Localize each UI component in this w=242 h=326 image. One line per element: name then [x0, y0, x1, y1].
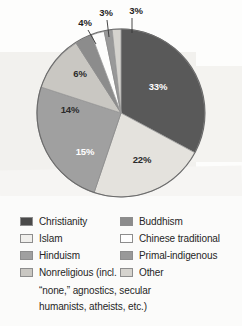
legend-continuation: “none,” agnostics, secular humanists, at…: [20, 283, 232, 315]
legend-item-nonreligious[interactable]: Nonreligious (incl.: [20, 265, 120, 280]
legend-row: Nonreligious (incl. Other: [20, 265, 232, 282]
legend-item-hinduism[interactable]: Hinduism: [20, 248, 120, 263]
legend-continuation-line-2: humanists, atheists, etc.): [39, 299, 232, 315]
legend-label-nonreligious: Nonreligious (incl.: [39, 265, 117, 280]
chart-legend: Christianity Buddhism Islam Chinese trad…: [20, 214, 232, 315]
legend-swatch-chinese-traditional: [120, 234, 133, 243]
legend-swatch-buddhism: [120, 217, 133, 226]
legend-item-chinese-traditional[interactable]: Chinese traditional: [120, 231, 232, 246]
legend-item-islam[interactable]: Islam: [20, 231, 120, 246]
slice-label-buddhism: 6%: [73, 68, 87, 79]
legend-row: Christianity Buddhism: [20, 214, 232, 231]
legend-continuation-line-1: “none,” agnostics, secular: [39, 283, 232, 299]
slice-label-christianity: 33%: [149, 81, 168, 92]
legend-label-hinduism: Hinduism: [39, 248, 80, 263]
slice-label-hinduism: 15%: [76, 146, 95, 157]
legend-swatch-primal-indigenous: [120, 251, 133, 260]
legend-label-christianity: Christianity: [39, 214, 87, 229]
legend-row: Hinduism Primal-indigenous: [20, 248, 232, 265]
slice-label-primal-indigenous: 3%: [99, 7, 113, 18]
legend-swatch-hinduism: [20, 251, 33, 260]
legend-swatch-christianity: [20, 217, 33, 226]
legend-label-primal-indigenous: Primal-indigenous: [139, 248, 217, 263]
legend-label-chinese-traditional: Chinese traditional: [139, 231, 220, 246]
pie-chart-svg: 33% 22% 15% 14% 6% 4% 3% 3%: [0, 0, 242, 208]
slice-label-chinese-traditional: 4%: [78, 17, 92, 28]
legend-label-buddhism: Buddhism: [139, 214, 183, 229]
legend-label-other: Other: [139, 265, 164, 280]
legend-label-islam: Islam: [39, 231, 62, 246]
legend-swatch-other: [120, 268, 133, 277]
legend-swatch-nonreligious: [20, 268, 33, 277]
legend-item-other[interactable]: Other: [120, 265, 232, 280]
legend-swatch-islam: [20, 234, 33, 243]
slice-label-islam: 22%: [133, 154, 152, 165]
legend-item-christianity[interactable]: Christianity: [20, 214, 120, 229]
slice-label-other: 3%: [129, 5, 143, 16]
pie-chart-figure: 33% 22% 15% 14% 6% 4% 3% 3% Christianity: [0, 0, 242, 326]
legend-item-buddhism[interactable]: Buddhism: [120, 214, 232, 229]
slice-label-nonreligious: 14%: [61, 104, 80, 115]
legend-item-primal-indigenous[interactable]: Primal-indigenous: [120, 248, 232, 263]
pie-chart-plot-area: 33% 22% 15% 14% 6% 4% 3% 3%: [0, 0, 242, 208]
legend-row: Islam Chinese traditional: [20, 231, 232, 248]
